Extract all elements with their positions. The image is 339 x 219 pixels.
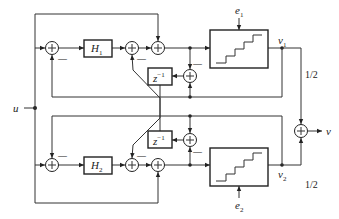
summer-top-1 bbox=[46, 42, 59, 55]
summer-output bbox=[295, 125, 308, 138]
input-label: u bbox=[13, 103, 19, 114]
minus-sign: — bbox=[58, 152, 67, 161]
minus-sign: — bbox=[137, 55, 146, 64]
h1-label: H1 bbox=[91, 43, 102, 57]
error-bottom-label: e2 bbox=[235, 200, 243, 214]
block-diagram: u v H1 H2 z−1 z−1 e1 e2 v1 v2 1/2 1/2 — … bbox=[0, 0, 339, 219]
summer-bottom-3 bbox=[152, 159, 165, 172]
output-label: v bbox=[326, 126, 331, 137]
v1-label: v1 bbox=[278, 35, 286, 49]
minus-sign: — bbox=[193, 60, 202, 69]
error-top-label: e1 bbox=[235, 5, 243, 19]
summer-top-3 bbox=[152, 42, 165, 55]
h2-label: H2 bbox=[91, 160, 102, 174]
summer-top-2 bbox=[126, 42, 139, 55]
minus-sign: — bbox=[58, 55, 67, 64]
delay-bottom-label: z−1 bbox=[153, 135, 165, 147]
minus-sign: — bbox=[193, 148, 202, 157]
delay-top-label: z−1 bbox=[153, 72, 165, 84]
v2-label: v2 bbox=[278, 169, 286, 183]
diagram-canvas bbox=[0, 0, 339, 219]
summer-bottom-1 bbox=[46, 159, 59, 172]
summer-top-error bbox=[184, 70, 197, 83]
summer-bottom-error bbox=[184, 134, 197, 147]
gain-bottom-label: 1/2 bbox=[305, 180, 318, 190]
minus-sign: — bbox=[137, 152, 146, 161]
gain-top-label: 1/2 bbox=[305, 70, 318, 80]
